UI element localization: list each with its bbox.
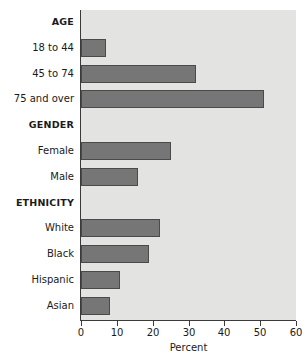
- bar: [81, 245, 149, 263]
- bar: [81, 90, 264, 108]
- bar-row: Hispanic: [0, 268, 308, 292]
- category-label: White: [0, 216, 74, 240]
- category-label: Asian: [0, 294, 74, 318]
- group-header-row: GENDER: [0, 113, 308, 137]
- category-label: 45 to 74: [0, 62, 74, 86]
- category-label: Black: [0, 242, 74, 266]
- category-label: Female: [0, 139, 74, 163]
- x-tick-mark: [81, 321, 82, 326]
- bar-row: Male: [0, 165, 308, 189]
- x-tick-label: 20: [141, 327, 165, 339]
- group-header-row: ETHNICITY: [0, 191, 308, 215]
- bar: [81, 219, 160, 237]
- bar: [81, 297, 110, 315]
- group-header-row: AGE: [0, 10, 308, 34]
- y-axis-line: [80, 10, 81, 321]
- x-tick-label: 60: [284, 327, 308, 339]
- x-axis-line: [80, 320, 296, 321]
- bar-row: Black: [0, 242, 308, 266]
- bar-row: White: [0, 216, 308, 240]
- bar-row: 45 to 74: [0, 62, 308, 86]
- x-tick-label: 50: [248, 327, 272, 339]
- x-tick-mark: [189, 321, 190, 326]
- x-tick-mark: [153, 321, 154, 326]
- category-label: 18 to 44: [0, 36, 74, 60]
- bar: [81, 65, 196, 83]
- bar-row: Female: [0, 139, 308, 163]
- bar-row: 75 and over: [0, 87, 308, 111]
- bar: [81, 168, 138, 186]
- bar-row: Asian: [0, 294, 308, 318]
- group-label: ETHNICITY: [0, 191, 74, 215]
- x-tick-label: 40: [212, 327, 236, 339]
- group-label: AGE: [0, 10, 74, 34]
- x-tick-label: 10: [105, 327, 129, 339]
- x-axis-title: Percent: [81, 342, 296, 353]
- x-tick-mark: [117, 321, 118, 326]
- bar: [81, 271, 120, 289]
- category-label: Hispanic: [0, 268, 74, 292]
- x-tick-label: 30: [177, 327, 201, 339]
- group-label: GENDER: [0, 113, 74, 137]
- x-tick-mark: [296, 321, 297, 326]
- x-tick-label: 0: [69, 327, 93, 339]
- x-tick-mark: [260, 321, 261, 326]
- bar-row: 18 to 44: [0, 36, 308, 60]
- bar: [81, 142, 171, 160]
- category-label: Male: [0, 165, 74, 189]
- bar: [81, 39, 106, 57]
- category-label: 75 and over: [0, 87, 74, 111]
- x-tick-mark: [224, 321, 225, 326]
- bar-chart: AGE18 to 4445 to 7475 and overGENDERFema…: [0, 0, 308, 359]
